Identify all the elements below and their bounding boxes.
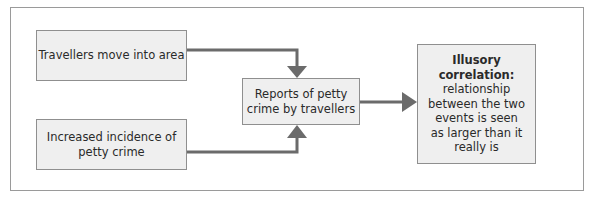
illusory-title-line1: Illusory bbox=[452, 53, 500, 68]
box-crime-line1: Increased incidence of bbox=[47, 130, 176, 145]
illusory-body-line3: events is seen bbox=[435, 111, 518, 126]
arrow-right-icon bbox=[402, 92, 417, 112]
box-travellers-label: Travellers move into area bbox=[39, 48, 185, 63]
box-crime-line2: petty crime bbox=[47, 145, 176, 160]
illusory-body-line4: as larger than it bbox=[431, 126, 523, 141]
connector-crime-to-reports bbox=[187, 136, 297, 152]
arrow-down-icon bbox=[287, 66, 307, 78]
illusory-title-line2: correlation: bbox=[439, 68, 515, 83]
connector-travellers-to-reports bbox=[187, 50, 297, 68]
box-increased-crime: Increased incidence of petty crime bbox=[36, 119, 187, 170]
box-reports-line2: crime by travellers bbox=[247, 102, 355, 117]
box-illusory-correlation: Illusory correlation: relationship betwe… bbox=[417, 44, 536, 164]
box-reports-line1: Reports of petty bbox=[247, 87, 355, 102]
box-reports-petty-crime: Reports of petty crime by travellers bbox=[242, 78, 360, 125]
illusory-body-line2: between the two bbox=[428, 97, 525, 112]
arrow-up-icon bbox=[287, 125, 307, 138]
illusory-body-line5: really is bbox=[454, 140, 499, 155]
illusory-body-line1: relationship bbox=[443, 82, 511, 97]
box-travellers-move: Travellers move into area bbox=[36, 30, 187, 81]
